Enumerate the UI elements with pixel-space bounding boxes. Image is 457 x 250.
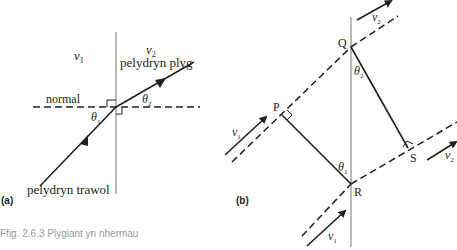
- point-R-label: R: [354, 185, 362, 199]
- refracted-ray-label: pelydryn plyg: [120, 55, 193, 70]
- point-S-label: S: [410, 151, 417, 165]
- panel-a: v1 v2 pelydryn plyg normal θ1 θ2 pelydry…: [1, 32, 200, 206]
- v2-upper-label: v2: [372, 10, 381, 26]
- right-angle-marker-P: [287, 110, 292, 120]
- v1-arrow-lower-icon: [307, 211, 345, 246]
- upper-ray-medium1: [232, 47, 351, 162]
- panel-b: P Q R S θ2 θ1 v1 v1 v2 v2 (b): [225, 1, 457, 247]
- incident-ray-arrow-icon: [80, 135, 88, 146]
- panel-a-label: (a): [1, 195, 13, 206]
- medium1-speed-label: v1: [74, 48, 84, 65]
- point-Q-label: Q: [338, 36, 347, 50]
- lower-ray-medium2: [351, 122, 457, 184]
- angle1-label: θ1: [91, 110, 101, 126]
- normal-label: normal: [46, 92, 81, 106]
- incident-ray: [40, 107, 116, 186]
- wavefront-QS: [351, 47, 408, 148]
- right-angle-marker-upper: [107, 100, 116, 107]
- figure-caption: Ffig. 2.6.3 Plygiant yn nhermau: [0, 228, 138, 239]
- refraction-diagram: v1 v2 pelydryn plyg normal θ1 θ2 pelydry…: [0, 0, 457, 250]
- angle1-label-b: θ1: [338, 160, 348, 176]
- v2-right-label: v2: [445, 148, 454, 164]
- v1-lower-label: v1: [328, 229, 337, 245]
- point-P-label: P: [273, 100, 280, 114]
- angle2-label: θ2: [142, 92, 152, 108]
- v1-upper-label: v1: [232, 125, 241, 141]
- incident-ray-label: pelydryn trawol: [27, 182, 110, 197]
- panel-b-label: (b): [236, 195, 249, 206]
- right-angle-marker-lower: [116, 107, 122, 114]
